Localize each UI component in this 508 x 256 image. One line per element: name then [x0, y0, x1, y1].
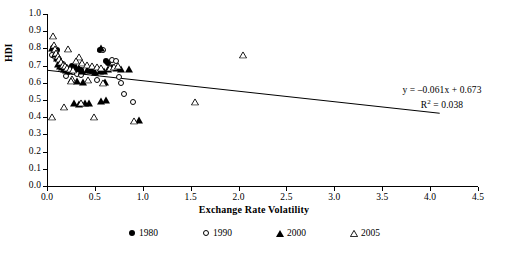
data-point-open-triangle: [67, 78, 75, 85]
legend-label: 2005: [361, 228, 380, 238]
regression-equation: y = –0.061x + 0.673: [382, 84, 502, 96]
x-axis-tick: [95, 187, 96, 191]
data-point-open-triangle: [114, 62, 122, 69]
data-point-filled-triangle: [85, 100, 93, 107]
x-axis-tick-label: 3.5: [376, 193, 388, 203]
chart-legend: 1980199020002005: [0, 228, 508, 238]
data-point-open-circle: [203, 230, 209, 236]
r-squared-value: R2 = 0.038: [382, 96, 502, 111]
y-axis-tick-label: 0.8: [29, 44, 41, 54]
scatter-chart-figure: HDI 0.00.10.20.30.40.50.60.70.80.91.0 0.…: [0, 0, 508, 256]
data-point-open-triangle: [99, 79, 107, 86]
y-axis-tick-label: 0.2: [29, 147, 41, 157]
x-axis-tick: [47, 187, 48, 191]
y-axis-tick-label: 0.9: [29, 26, 41, 36]
x-axis-title: Exchange Rate Volatility: [0, 204, 508, 215]
x-axis-tick-label: 4.0: [424, 193, 436, 203]
y-axis-title: HDI: [4, 43, 14, 62]
data-point-filled-triangle: [97, 44, 105, 51]
y-axis-tick-label: 0.1: [29, 164, 41, 174]
x-axis-tick: [239, 187, 240, 191]
x-axis-tick: [430, 187, 431, 191]
data-point-open-triangle: [350, 230, 358, 237]
x-axis-tick-label: 0.0: [41, 193, 53, 203]
legend-entry-2000[interactable]: 2000: [276, 228, 306, 238]
x-axis-tick-label: 1.5: [185, 193, 197, 203]
legend-label: 1990: [213, 228, 232, 238]
r-squared-number: = 0.038: [431, 100, 463, 110]
data-point-open-triangle: [97, 64, 105, 71]
legend-marker-open-circle-icon: [202, 229, 210, 237]
x-axis-tick-label: 2.5: [280, 193, 292, 203]
data-point-open-triangle: [69, 67, 77, 74]
data-point-open-triangle: [84, 77, 92, 84]
y-axis-tick-label: 0.7: [29, 61, 41, 71]
x-axis-tick: [143, 187, 144, 191]
legend-label: 1980: [139, 228, 158, 238]
data-point-open-triangle: [48, 113, 56, 120]
legend-entry-1980[interactable]: 1980: [128, 228, 158, 238]
data-point-open-triangle: [239, 52, 247, 59]
regression-annotation: y = –0.061x + 0.673 R2 = 0.038: [382, 84, 502, 111]
data-point-open-triangle: [60, 103, 68, 110]
data-point-open-triangle: [130, 117, 138, 124]
data-point-open-circle: [121, 91, 127, 97]
legend-marker-filled-circle-icon: [128, 229, 136, 237]
data-point-open-circle: [130, 99, 136, 105]
x-axis-tick-label: 0.5: [89, 193, 101, 203]
data-point-open-circle: [116, 74, 122, 80]
data-point-filled-triangle: [102, 97, 110, 104]
x-axis-tick-label: 3.0: [328, 193, 340, 203]
legend-marker-open-triangle-icon: [350, 229, 358, 237]
y-axis-tick-label: 0.6: [29, 78, 41, 88]
data-point-open-triangle: [90, 113, 98, 120]
data-point-open-triangle: [49, 32, 57, 39]
data-point-filled-triangle: [276, 230, 284, 237]
x-axis-tick: [334, 187, 335, 191]
x-axis-tick-label: 1.0: [137, 193, 149, 203]
data-point-open-circle: [118, 80, 124, 86]
x-axis-tick-label: 2.0: [232, 193, 244, 203]
legend-entry-1990[interactable]: 1990: [202, 228, 232, 238]
x-axis-tick: [191, 187, 192, 191]
data-point-filled-triangle: [125, 66, 133, 73]
y-axis-tick-label: 1.0: [29, 9, 41, 19]
y-axis-tick-label: 0.0: [29, 181, 41, 191]
x-axis-tick: [286, 187, 287, 191]
legend-marker-filled-triangle-icon: [276, 229, 284, 237]
x-axis-tick: [382, 187, 383, 191]
legend-label: 2000: [287, 228, 306, 238]
y-axis-tick-label: 0.3: [29, 130, 41, 140]
data-point-filled-circle: [129, 230, 135, 236]
x-axis-tick: [478, 187, 479, 191]
x-axis-tick-label: 4.5: [472, 193, 484, 203]
y-axis-tick-label: 0.5: [29, 95, 41, 105]
y-axis-tick-label: 0.4: [29, 112, 41, 122]
data-point-open-triangle: [64, 45, 72, 52]
data-point-open-triangle: [77, 100, 85, 107]
data-point-open-triangle: [191, 98, 199, 105]
legend-entry-2005[interactable]: 2005: [350, 228, 380, 238]
